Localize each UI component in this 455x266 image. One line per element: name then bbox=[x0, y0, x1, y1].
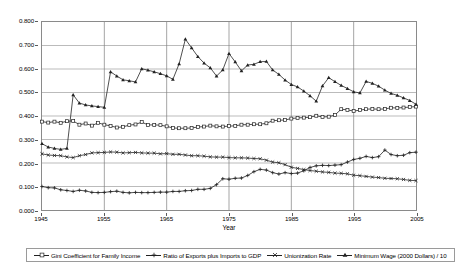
data-point-marker-open-square bbox=[333, 114, 336, 117]
data-point-marker-filled-triangle bbox=[389, 92, 393, 95]
data-point-marker-open-square bbox=[408, 106, 411, 109]
data-point-marker-open-square bbox=[159, 124, 162, 127]
data-point-marker-filled-triangle bbox=[140, 67, 144, 70]
plot-area bbox=[41, 21, 417, 211]
data-point-marker-plus bbox=[65, 189, 69, 193]
data-point-marker-plus bbox=[414, 150, 418, 154]
data-point-marker-open-square bbox=[271, 119, 274, 122]
data-point-marker-open-square bbox=[109, 124, 112, 127]
legend-entry: Unionization Rate bbox=[267, 251, 331, 259]
data-point-marker-open-square bbox=[246, 123, 249, 126]
data-point-marker-open-square bbox=[296, 116, 299, 119]
data-point-marker-filled-triangle bbox=[177, 62, 181, 65]
data-point-marker-plus bbox=[408, 151, 412, 155]
data-point-marker-open-square bbox=[221, 125, 224, 128]
data-point-marker-open-square bbox=[190, 127, 193, 130]
data-point-marker-plus bbox=[127, 191, 131, 195]
data-point-marker-plus bbox=[140, 191, 144, 195]
data-point-marker-open-square bbox=[47, 121, 50, 124]
data-point-marker-open-square bbox=[84, 122, 87, 125]
data-point-marker-plus bbox=[115, 189, 119, 193]
data-point-marker-plus bbox=[109, 190, 113, 194]
data-point-marker-plus bbox=[134, 191, 138, 195]
data-point-marker-open-square bbox=[321, 115, 324, 118]
y-tick-label: 0.300 bbox=[19, 137, 34, 143]
y-tick-mark bbox=[35, 21, 38, 22]
legend-marker-cross-icon bbox=[267, 251, 282, 259]
data-point-marker-plus bbox=[96, 191, 100, 195]
data-point-marker-filled-triangle bbox=[352, 90, 356, 93]
data-point-marker-open-square bbox=[65, 120, 68, 123]
data-point-marker-filled-triangle bbox=[184, 37, 188, 40]
data-point-marker-plus bbox=[184, 189, 188, 193]
x-tick-label: 1995 bbox=[348, 216, 361, 222]
data-point-marker-open-square bbox=[309, 116, 312, 119]
data-point-marker-open-square bbox=[196, 126, 199, 129]
data-point-marker-open-square bbox=[396, 107, 399, 110]
data-point-marker-open-square bbox=[59, 121, 62, 124]
data-point-marker-plus bbox=[346, 160, 350, 164]
data-point-marker-cross bbox=[273, 253, 277, 257]
data-point-marker-plus bbox=[227, 177, 231, 181]
data-point-marker-plus bbox=[121, 191, 125, 195]
data-point-marker-plus bbox=[271, 171, 275, 175]
data-point-marker-plus bbox=[314, 164, 318, 168]
y-tick-label: 0.200 bbox=[19, 160, 34, 166]
data-point-marker-open-square bbox=[265, 122, 268, 125]
data-point-marker-plus bbox=[209, 187, 213, 191]
data-point-marker-open-square bbox=[78, 123, 81, 126]
y-tick-mark bbox=[35, 45, 38, 46]
data-point-marker-plus bbox=[84, 189, 88, 193]
x-tick-label: 1945 bbox=[34, 216, 47, 222]
data-point-marker-filled-triangle bbox=[46, 145, 50, 148]
data-point-marker-open-square bbox=[327, 115, 330, 118]
data-point-marker-filled-triangle bbox=[71, 93, 75, 96]
data-point-marker-plus bbox=[364, 155, 368, 159]
data-point-marker-open-square bbox=[252, 123, 255, 126]
data-point-marker-open-square bbox=[203, 125, 206, 128]
data-point-marker-plus bbox=[246, 174, 250, 178]
data-point-marker-open-square bbox=[97, 121, 100, 124]
data-point-marker-filled-triangle bbox=[65, 147, 69, 150]
x-tick-label: 1975 bbox=[222, 216, 235, 222]
data-point-marker-plus bbox=[396, 154, 400, 158]
data-point-marker-plus bbox=[177, 190, 181, 194]
data-point-marker-open-square bbox=[165, 125, 168, 128]
data-point-marker-open-square bbox=[122, 125, 125, 128]
data-point-marker-open-square bbox=[340, 108, 343, 111]
data-point-marker-filled-triangle bbox=[383, 88, 387, 91]
y-tick-label: 0.000 bbox=[19, 208, 34, 214]
data-point-marker-open-square bbox=[128, 124, 131, 127]
series-2 bbox=[40, 150, 417, 182]
data-point-marker-plus bbox=[103, 191, 107, 195]
data-point-marker-plus bbox=[371, 156, 375, 160]
data-point-marker-filled-triangle bbox=[327, 76, 331, 79]
chart-legend: Gini Coefficient for Family IncomeRatio … bbox=[26, 248, 455, 262]
data-point-marker-plus bbox=[171, 190, 175, 194]
data-point-marker-open-square bbox=[90, 124, 93, 127]
data-point-marker-filled-triangle bbox=[414, 102, 418, 105]
legend-marker-filled-triangle-icon bbox=[337, 251, 352, 259]
x-tick-label: 1965 bbox=[160, 216, 173, 222]
data-point-marker-filled-triangle bbox=[171, 77, 175, 80]
x-tick-label: 1985 bbox=[285, 216, 298, 222]
data-point-marker-plus bbox=[159, 190, 163, 194]
y-tick-label: 0.100 bbox=[19, 184, 34, 190]
data-point-marker-open-square bbox=[40, 253, 44, 257]
data-point-marker-open-square bbox=[383, 107, 386, 110]
data-point-marker-open-square bbox=[277, 119, 280, 122]
y-tick-mark bbox=[35, 211, 38, 212]
x-tick-mark bbox=[292, 213, 293, 216]
data-point-marker-plus bbox=[202, 188, 206, 192]
x-tick-mark bbox=[104, 213, 105, 216]
data-point-marker-plus bbox=[358, 157, 362, 161]
data-point-marker-filled-triangle bbox=[40, 142, 44, 145]
data-point-marker-open-square bbox=[209, 124, 212, 127]
data-point-marker-open-square bbox=[215, 125, 218, 128]
y-tick-mark bbox=[35, 140, 38, 141]
data-point-marker-plus bbox=[46, 186, 50, 190]
data-point-marker-plus bbox=[78, 188, 82, 192]
data-point-marker-plus bbox=[240, 176, 244, 180]
y-tick-mark bbox=[35, 164, 38, 165]
